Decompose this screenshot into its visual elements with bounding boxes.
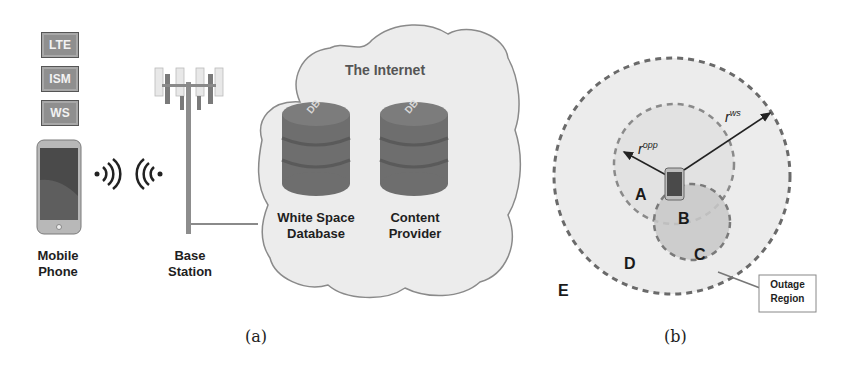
caption-a: (a)	[245, 327, 267, 346]
region-d-label: D	[624, 255, 636, 273]
label-line: White Space	[264, 210, 368, 226]
radius-superscript: ws	[730, 108, 741, 118]
base-station-label: Base Station	[160, 248, 220, 280]
database-icon	[380, 102, 448, 196]
diagram-canvas	[0, 0, 850, 371]
content-provider-label: Content Provider	[375, 210, 455, 242]
database-icon	[282, 102, 350, 196]
radius-superscript: opp	[643, 140, 658, 150]
label-line: Database	[264, 226, 368, 242]
label-line: Provider	[375, 226, 455, 242]
band-ism-badge: ISM	[41, 66, 79, 92]
cell-tower-icon	[155, 68, 223, 234]
smartphone-icon	[37, 140, 81, 234]
wireless-signal-icon	[95, 159, 121, 189]
label-line: Phone	[28, 264, 88, 280]
label-line: Mobile	[28, 248, 88, 264]
region-c-label: C	[694, 246, 706, 264]
white-space-database-label: White Space Database	[264, 210, 368, 242]
region-b-label: B	[678, 210, 690, 228]
label-line: Station	[160, 264, 220, 280]
radius-opp-label: ropp	[638, 140, 658, 157]
region-a-label: A	[635, 186, 647, 204]
smartphone-icon	[665, 168, 684, 200]
label-line: Content	[375, 210, 455, 226]
band-lte-badge: LTE	[41, 32, 79, 58]
wireless-signal-icon	[137, 159, 163, 189]
radius-ws-label: rws	[725, 108, 741, 125]
mobile-phone-label: Mobile Phone	[28, 248, 88, 280]
label-line: Outage	[759, 278, 816, 292]
region-e-label: E	[558, 282, 569, 300]
cloud-title: The Internet	[330, 62, 440, 78]
label-line: Base	[160, 248, 220, 264]
label-line: Region	[759, 292, 816, 306]
caption-b: (b)	[664, 327, 687, 346]
outage-region-callout: Outage Region	[759, 278, 816, 306]
band-ws-badge: WS	[41, 100, 79, 126]
